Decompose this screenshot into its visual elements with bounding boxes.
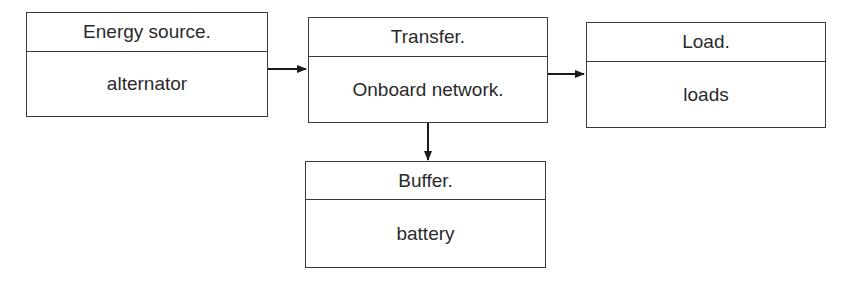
node-title: Load.: [587, 23, 825, 62]
node-content: Onboard network.: [309, 57, 547, 122]
node-title: Energy source.: [27, 13, 267, 52]
node-content: loads: [587, 62, 825, 127]
node-content: battery: [306, 200, 545, 267]
node-energy-source: Energy source. alternator: [26, 12, 268, 117]
node-content: alternator: [27, 52, 267, 116]
node-buffer: Buffer. battery: [305, 161, 546, 268]
node-title: Transfer.: [309, 18, 547, 57]
node-transfer: Transfer. Onboard network.: [308, 17, 548, 123]
node-title: Buffer.: [306, 162, 545, 200]
node-load: Load. loads: [586, 22, 826, 128]
